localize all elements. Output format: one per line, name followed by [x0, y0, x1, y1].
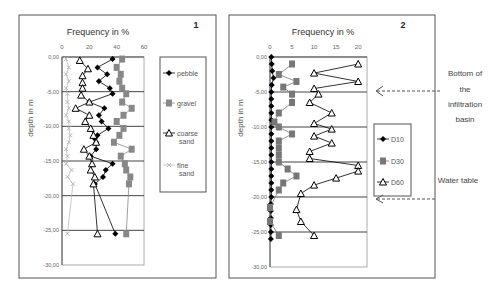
- square-marker: [280, 84, 286, 91]
- square-marker: [114, 64, 120, 71]
- annotation-bottom-basin: Bottom of: [448, 69, 483, 78]
- legend-label: sand: [179, 138, 194, 145]
- square-marker: [267, 204, 273, 211]
- x-tick-label: 20: [355, 44, 362, 50]
- square-marker: [280, 180, 286, 187]
- square-marker: [118, 153, 124, 160]
- y-tick-label: -10,00: [251, 124, 267, 130]
- square-marker: [123, 90, 129, 97]
- y-tick-label: -15,00: [251, 159, 267, 165]
- square-marker: [116, 78, 122, 85]
- chart-panel-1: 1Frequency in %02040600,00-5,00-10,00-15…: [19, 15, 216, 278]
- square-marker: [116, 132, 122, 139]
- square-marker: [118, 71, 124, 78]
- legend-label: fine: [177, 162, 188, 169]
- y-tick-label: -25,00: [251, 229, 267, 235]
- square-marker: [276, 187, 282, 194]
- annotation-bottom-basin: basin: [455, 115, 474, 124]
- legend-label: D30: [391, 158, 404, 165]
- annotation-bottom-basin: the: [459, 85, 471, 94]
- square-marker: [276, 232, 282, 239]
- square-marker: [129, 146, 135, 153]
- x-tick-label: 20: [86, 44, 93, 50]
- x-tick-label: 60: [141, 44, 148, 50]
- x-tick-label: 10: [311, 44, 318, 50]
- square-marker: [114, 118, 120, 125]
- square-marker: [121, 112, 127, 119]
- square-marker: [126, 180, 132, 187]
- legend-label: D10: [391, 136, 404, 143]
- y-axis-label: depth in m: [236, 99, 245, 137]
- y-axis-label: depth in m: [26, 99, 35, 137]
- square-marker: [111, 139, 117, 146]
- annotation-bottom-basin: infiltration: [448, 100, 482, 109]
- square-marker: [119, 99, 125, 106]
- y-tick-label: 0,00: [256, 54, 267, 60]
- square-marker: [129, 105, 135, 112]
- chart-title: Frequency in %: [292, 27, 355, 37]
- legend-label: sand: [179, 170, 194, 177]
- square-marker: [123, 230, 129, 237]
- y-tick-label: -20,00: [251, 194, 267, 200]
- square-marker: [121, 125, 127, 132]
- figure: 1Frequency in %02040600,00-5,00-10,00-15…: [0, 0, 499, 301]
- square-marker: [276, 124, 282, 131]
- y-tick-label: 0,00: [48, 54, 59, 60]
- square-marker: [285, 166, 291, 173]
- panel-number: 2: [400, 20, 405, 30]
- legend-label: D60: [391, 179, 404, 186]
- legend: pebblegravelcoarsesandfinesand: [160, 57, 206, 192]
- panel-number: 1: [193, 20, 198, 30]
- chart-panel-2: 2Frequency in %051015200,00-5,00-10,00-1…: [229, 15, 435, 278]
- square-marker: [166, 100, 172, 107]
- square-marker: [119, 56, 125, 63]
- square-marker: [276, 71, 282, 78]
- square-marker: [293, 78, 299, 85]
- y-tick-label: -30,00: [251, 264, 267, 270]
- y-tick-label: -10,00: [43, 123, 59, 129]
- square-marker: [289, 91, 295, 98]
- legend-label: pebble: [177, 70, 198, 78]
- square-marker: [380, 158, 386, 165]
- square-marker: [289, 131, 295, 138]
- legend-label: gravel: [177, 100, 197, 108]
- legend: D10D30D60: [374, 124, 411, 196]
- square-marker: [293, 173, 299, 180]
- y-tick-label: -20,00: [43, 193, 59, 199]
- y-tick-label: -30,00: [43, 262, 59, 268]
- chart-title: Frequency in %: [67, 27, 130, 37]
- y-tick-label: -5,00: [46, 89, 59, 95]
- x-tick-label: 40: [113, 44, 120, 50]
- square-marker: [276, 110, 282, 117]
- square-marker: [123, 167, 129, 174]
- square-marker: [289, 99, 295, 106]
- square-marker: [276, 159, 282, 166]
- square-marker: [276, 152, 282, 159]
- square-marker: [289, 61, 295, 68]
- y-tick-label: -15,00: [43, 158, 59, 164]
- square-marker: [276, 138, 282, 145]
- y-tick-label: -25,00: [43, 227, 59, 233]
- square-marker: [127, 173, 133, 180]
- square-marker: [276, 145, 282, 152]
- x-tick-label: 15: [333, 44, 340, 50]
- square-marker: [267, 218, 273, 225]
- square-marker: [122, 160, 128, 167]
- y-tick-label: -5,00: [254, 89, 267, 95]
- annotation-water-table: Water table: [438, 176, 479, 185]
- legend-label: coarse: [177, 130, 198, 137]
